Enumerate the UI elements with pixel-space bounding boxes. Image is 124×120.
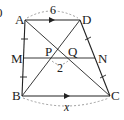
label-C: C	[111, 88, 120, 103]
figure-number: 0	[0, 5, 3, 20]
label-A: A	[15, 12, 25, 27]
parallel-arrow-AD	[49, 17, 55, 23]
measure-PQ: 2	[57, 61, 63, 75]
label-D: D	[82, 12, 91, 27]
measure-AD: 6	[50, 3, 56, 17]
label-Q: Q	[68, 44, 78, 59]
label-M: M	[11, 51, 23, 66]
label-N: N	[98, 51, 108, 66]
measure-BC: x	[63, 100, 70, 114]
parallel-arrow-BC	[64, 93, 70, 99]
label-P: P	[45, 44, 52, 59]
label-B: B	[12, 88, 21, 103]
trapezoid-diagram: 0 A D B C M N P Q 6 2 x	[0, 0, 124, 120]
